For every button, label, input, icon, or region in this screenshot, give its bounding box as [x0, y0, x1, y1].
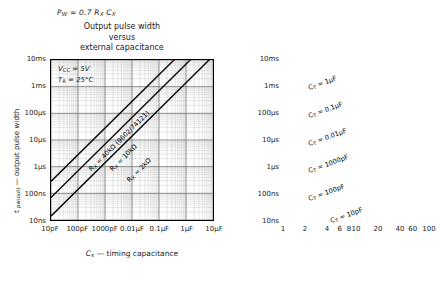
y-tick-left: 100ns [10, 190, 46, 198]
y-tick-left: 10ns [10, 217, 46, 225]
x-tick-right: 8 [347, 225, 351, 233]
y-tick-right: 10ms [243, 55, 279, 63]
condition-vcc-left: VCC = 5V [58, 65, 93, 76]
y-tick-left: 10ms [10, 55, 46, 63]
y-tick-right: 10µs [243, 136, 279, 144]
y-tick-right: 10ns [243, 217, 279, 225]
x-tick-right: 10 [352, 225, 361, 233]
x-tick-left: 0.1µF [150, 225, 170, 233]
x-tick-right: 6 [338, 225, 342, 233]
y-tick-right: 1µs [243, 163, 279, 171]
y-tick-right: 100ns [243, 190, 279, 198]
y-tick-left: 1µs [10, 163, 46, 171]
x-tick-left: 100pF [66, 225, 88, 233]
x-tick-right: 1 [281, 225, 285, 233]
x-tick-right: 20 [374, 225, 383, 233]
conditions-left: VCC = 5V TA = 25°C [58, 65, 93, 86]
y-tick-left: 100µs [10, 109, 46, 117]
x-tick-left: 10pF [41, 225, 58, 233]
condition-ta-left: TA = 25°C [58, 76, 93, 87]
y-tick-left: 10µs [10, 136, 46, 144]
x-axis-label-left: Cx — timing capacitance [50, 249, 214, 258]
x-tick-left: 1µF [180, 225, 193, 233]
x-tick-left: 0.01µF [120, 225, 144, 233]
y-tick-right: 100µs [243, 109, 279, 117]
chart-title-left: Output pulse width versus external capac… [80, 22, 164, 54]
x-axis-label-left-post: — timing capacitance [94, 249, 178, 258]
x-tick-left: 10µF [205, 225, 222, 233]
chart-title-left-line1: Output pulse width [80, 22, 164, 33]
x-tick-left: 1000pF [92, 225, 118, 233]
x-tick-right: 4 [325, 225, 329, 233]
y-tick-right: 1ms [243, 82, 279, 90]
y-tick-left: 1ms [10, 82, 46, 90]
x-tick-right: 40 [395, 225, 404, 233]
x-tick-right: 2 [303, 225, 307, 233]
chart-title-left-line3: external capacitance [80, 43, 164, 54]
x-tick-right: 60 [408, 225, 417, 233]
chart-title-left-line2: versus [80, 33, 164, 44]
y-axis-label-left-pre: t [12, 208, 21, 213]
x-tick-right: 100 [422, 225, 435, 233]
y-axis-label-left-post: — output pulse width [12, 109, 21, 188]
